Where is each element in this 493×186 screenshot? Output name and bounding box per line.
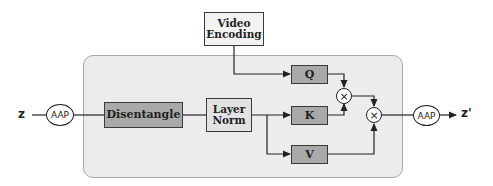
video-encoding-line2: Encoding (206, 29, 261, 40)
output-z-prime-label: z' (461, 106, 472, 120)
output-aap-node: AAP (413, 105, 440, 126)
value-box: V (291, 145, 328, 164)
multiply-v-node: × (366, 107, 382, 123)
video-encoding-box: Video Encoding (204, 12, 264, 46)
key-box: K (291, 106, 328, 125)
query-box: Q (291, 65, 328, 84)
input-z-label: z (18, 107, 25, 121)
layer-norm-line2: Norm (212, 115, 245, 126)
input-aap-node: AAP (46, 104, 74, 126)
disentangle-box: Disentangle (104, 102, 183, 128)
multiply-qk-node: × (336, 88, 352, 104)
layer-norm-box: Layer Norm (206, 98, 252, 132)
